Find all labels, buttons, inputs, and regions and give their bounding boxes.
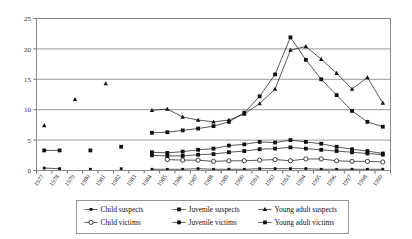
data-point-filled-square [273, 141, 277, 145]
data-point-filled-square-small [90, 208, 93, 211]
x-axis-tick-label: 1986 [171, 173, 184, 187]
legend-item-label: Child victims [101, 218, 141, 227]
series-line [44, 168, 59, 169]
series-young-adult-victims [150, 35, 385, 134]
data-point-filled-square [319, 142, 323, 146]
x-axis-tick-label: 1991 [248, 173, 261, 187]
x-axis-tick-label: 1984 [140, 173, 153, 187]
x-axis-tick-label: 1983 [125, 173, 138, 187]
data-point-open-circle [165, 157, 169, 161]
data-point-filled-square [304, 147, 308, 151]
data-point-filled-square [177, 208, 181, 212]
legend-item-label: Child suspects [101, 205, 144, 214]
x-axis-tick-label: 1999 [371, 173, 384, 187]
data-point-filled-square [212, 124, 216, 128]
x-axis-tick-label: 1981 [94, 173, 107, 187]
series-line [152, 46, 383, 121]
data-point-open-circle [196, 158, 200, 162]
data-point-filled-square [150, 153, 154, 157]
data-point-filled-square [304, 140, 308, 144]
x-axis-tick-label: 1985 [155, 173, 168, 187]
data-point-open-circle [319, 157, 323, 161]
data-point-filled-square [273, 73, 277, 77]
data-point-filled-square [227, 150, 231, 154]
x-axis-tick-label: 1978 [48, 173, 61, 187]
data-point-filled-square [165, 154, 169, 158]
data-point-open-circle [288, 159, 292, 163]
data-point-open-circle [335, 159, 339, 163]
data-point-filled-triangle [319, 57, 323, 61]
data-point-filled-square [181, 150, 185, 154]
x-axis-tick-label: 1990 [232, 173, 245, 187]
data-point-open-circle [350, 159, 354, 163]
data-point-filled-triangle [181, 115, 185, 119]
data-point-filled-square [196, 148, 200, 152]
chart-legend[interactable]: Child suspectsJuvenile suspectsYoung adu… [77, 201, 349, 234]
data-point-open-circle [227, 159, 231, 163]
series-child-victims [165, 157, 385, 164]
data-point-filled-square [258, 94, 262, 98]
line-chart: 0510152025 19771978197919801981198219831… [0, 0, 412, 239]
data-point-filled-square [212, 147, 216, 151]
data-point-filled-square [350, 150, 354, 154]
data-point-open-circle [365, 159, 369, 163]
data-point-open-circle [381, 160, 385, 164]
x-axis-tick-label: 1998 [355, 173, 368, 187]
data-point-filled-triangle [304, 44, 308, 48]
data-point-open-circle [89, 220, 93, 224]
data-point-filled-square [242, 149, 246, 153]
data-point-filled-square [335, 93, 339, 97]
data-point-filled-triangle [104, 81, 108, 85]
legend-item-label: Juvenile suspects [189, 205, 240, 214]
legend-item-label: Young adult suspects [275, 205, 338, 214]
x-axis-labels: 1977197819791980198119821983198419851986… [32, 173, 383, 187]
data-point-filled-square-small [304, 167, 307, 170]
data-point-filled-square [177, 221, 181, 225]
data-point-filled-square [242, 111, 246, 115]
data-point-filled-square [42, 149, 46, 153]
series-line [152, 169, 383, 170]
data-point-filled-square-small [197, 167, 200, 170]
data-point-filled-square [212, 152, 216, 156]
y-axis-tick-label: 15 [24, 76, 32, 84]
x-axis-tick-label: 1982 [109, 173, 122, 187]
data-point-filled-square [181, 154, 185, 158]
data-point-filled-square [242, 142, 246, 146]
data-point-filled-square [258, 147, 262, 151]
data-point-filled-triangle [42, 123, 46, 127]
data-point-filled-square [289, 138, 293, 142]
y-axis-tick-label: 20 [24, 46, 32, 54]
data-point-filled-square [227, 144, 231, 148]
x-axis-tick-label: 1979 [63, 173, 76, 187]
data-point-filled-square-small [120, 167, 123, 170]
data-series [42, 35, 385, 170]
data-point-filled-square [181, 128, 185, 132]
data-point-filled-square [335, 149, 339, 153]
data-point-filled-triangle [273, 87, 277, 91]
x-axis-tick-label: 1987 [186, 173, 199, 187]
x-axis-tick-label: 1993 [278, 173, 291, 187]
data-point-filled-square [150, 131, 154, 135]
data-point-filled-square [381, 153, 385, 157]
data-point-filled-square-small [258, 167, 261, 170]
data-point-filled-square [88, 149, 92, 153]
data-point-open-circle [242, 159, 246, 163]
data-point-filled-triangle [365, 75, 369, 79]
x-axis-tick-label: 1989 [217, 173, 230, 187]
y-axis-tick-label: 10 [24, 106, 32, 114]
series-line [152, 140, 383, 153]
data-point-filled-square [381, 125, 385, 129]
data-point-filled-square [119, 145, 123, 149]
x-axis-tick-label: 1980 [78, 173, 91, 187]
x-axis-tick-label: 1977 [32, 173, 45, 187]
data-point-filled-square [366, 120, 370, 124]
data-point-filled-square [366, 152, 370, 156]
data-point-open-circle [304, 157, 308, 161]
data-point-filled-square-small [43, 167, 46, 170]
y-axis-tick-label: 5 [28, 137, 32, 145]
data-point-filled-square [58, 149, 62, 153]
legend-item-label: Young adult victims [275, 218, 335, 227]
y-axis-tick-label: 25 [24, 15, 32, 23]
data-point-filled-square [289, 35, 293, 39]
y-axis-labels: 0510152025 [24, 15, 32, 175]
